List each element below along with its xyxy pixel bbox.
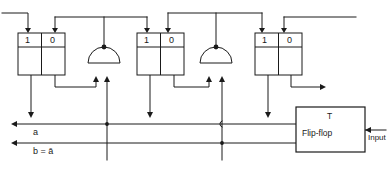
logic-diagram-canvas <box>0 0 392 169</box>
bus-b-label: b = ā <box>33 146 53 156</box>
wire-b2-right-to-gate2 <box>174 75 209 87</box>
arrow-in-b3-right <box>281 28 287 33</box>
arrow-bus-b <box>11 140 17 146</box>
arrow-in-b2-left <box>144 28 150 33</box>
gate1-apex-dot <box>102 45 107 50</box>
arrow-bus-a <box>11 121 17 127</box>
gate-dome-1[interactable] <box>88 45 120 63</box>
flip-flop-input-label: Input <box>368 133 386 142</box>
arrow-gate1-in-left <box>93 76 99 82</box>
bus-a-label: a <box>33 127 38 137</box>
junction-busA-gate1 <box>105 122 109 126</box>
arrow-in-b2-right <box>165 28 171 33</box>
arrow-gate2-in-right <box>219 76 225 82</box>
arrow-b3-left-out <box>265 112 271 118</box>
flip-flop-type-label: T <box>327 111 332 121</box>
cell-stage-2-label-0: 0 <box>169 35 174 45</box>
cell-stage-1-label-0: 0 <box>50 35 55 45</box>
cell-stage-2-label-1: 1 <box>144 35 149 45</box>
wire-top-left-in <box>2 13 28 30</box>
wire-b1-right-to-gate1 <box>55 75 96 87</box>
counter-cells <box>18 33 302 75</box>
gate2-apex-dot <box>214 45 219 50</box>
arrow-in-b1-right <box>52 28 58 33</box>
arrow-b3-right-out <box>320 84 326 90</box>
arrow-in-b3-left <box>259 28 265 33</box>
gate-dome-2[interactable] <box>200 45 232 63</box>
flip-flop-name-label: Flip-flop <box>302 128 332 138</box>
arrow-b1-left-out <box>28 112 34 118</box>
arrow-gate2-in-left <box>206 76 212 82</box>
wire-b3-right-out <box>291 75 323 87</box>
cell-stage-3-label-0: 0 <box>287 35 292 45</box>
junction-busB-gate2 <box>220 141 224 145</box>
arrow-b2-left-out <box>147 112 153 118</box>
arrow-in-b1-left <box>25 28 31 33</box>
cell-stage-1-label-1: 1 <box>25 35 30 45</box>
arrow-gate1-in-right <box>104 76 110 82</box>
cell-stage-3-label-1: 1 <box>262 35 267 45</box>
